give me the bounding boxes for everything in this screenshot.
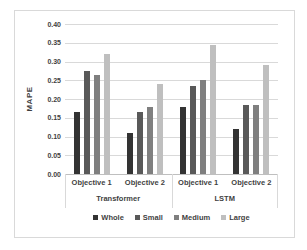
y-tick-label: 0.30	[15, 57, 61, 66]
bar-group	[65, 24, 118, 174]
bar-large	[210, 45, 216, 174]
legend-item-large: Large	[221, 211, 249, 224]
legend-swatch-icon	[221, 215, 226, 220]
legend-item-small: Small	[135, 211, 163, 224]
legend-swatch-icon	[135, 215, 140, 220]
bar-large	[157, 84, 163, 174]
category-divider	[277, 174, 278, 208]
bar-group	[225, 24, 278, 174]
y-tick-label: 0.35	[15, 38, 61, 47]
y-tick-label: 0.25	[15, 76, 61, 85]
y-tick-label: 0.05	[15, 151, 61, 160]
y-tick-label: 0.15	[15, 113, 61, 122]
bar-large	[263, 65, 269, 174]
bar-groups	[65, 24, 278, 174]
bar-small	[190, 86, 196, 174]
bar-large	[104, 54, 110, 174]
objective-label: Objective 2	[118, 176, 171, 190]
category-divider	[172, 174, 173, 208]
bar-group	[172, 24, 225, 174]
bar-medium	[147, 107, 153, 175]
legend-item-whole: Whole	[93, 211, 124, 224]
objective-label: Objective 1	[172, 176, 225, 190]
y-tick-label: 0.10	[15, 132, 61, 141]
bar-small	[84, 71, 90, 174]
objective-label: Objective 1	[65, 176, 118, 190]
bar-whole	[74, 112, 80, 174]
bar-small	[137, 112, 143, 174]
legend-label: Medium	[182, 211, 210, 224]
plot-area	[65, 24, 278, 174]
bar-medium	[200, 80, 206, 174]
y-axis-tick-labels: 0.400.350.300.250.200.150.100.050.00	[15, 24, 61, 174]
chart-canvas: MAPE 0.400.350.300.250.200.150.100.050.0…	[0, 0, 307, 250]
y-tick-label: 0.00	[15, 170, 61, 179]
bar-group	[118, 24, 171, 174]
y-tick-label: 0.20	[15, 95, 61, 104]
legend: WholeSmallMediumLarge	[65, 211, 278, 224]
legend-item-medium: Medium	[174, 211, 210, 224]
legend-label: Whole	[101, 211, 124, 224]
bar-whole	[233, 129, 239, 174]
bar-whole	[127, 133, 133, 174]
model-label: LSTM	[172, 192, 279, 206]
legend-swatch-icon	[174, 215, 179, 220]
legend-label: Large	[229, 211, 249, 224]
model-label: Transformer	[65, 192, 172, 206]
legend-label: Small	[143, 211, 163, 224]
chart-frame: MAPE 0.400.350.300.250.200.150.100.050.0…	[14, 10, 295, 238]
bar-medium	[94, 75, 100, 174]
objective-label: Objective 2	[225, 176, 278, 190]
category-divider	[65, 174, 66, 208]
legend-swatch-icon	[93, 215, 98, 220]
y-tick-label: 0.40	[15, 20, 61, 29]
bar-small	[243, 105, 249, 174]
bar-whole	[180, 107, 186, 175]
bar-medium	[253, 105, 259, 174]
